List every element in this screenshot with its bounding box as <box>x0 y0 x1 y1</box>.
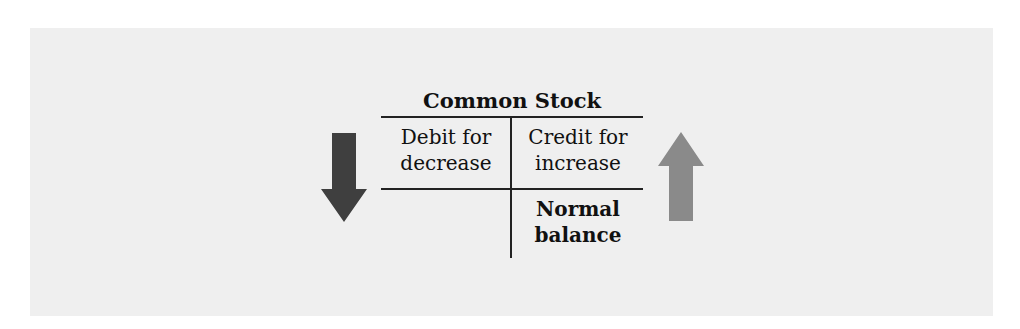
normal-balance-line1: Normal <box>513 196 643 222</box>
arrow-down-icon <box>319 133 369 223</box>
credit-label-line2: increase <box>513 150 643 176</box>
normal-balance-line2: balance <box>513 222 643 248</box>
debit-label-line2: decrease <box>383 150 509 176</box>
t-account-top-line <box>381 116 643 118</box>
t-account-divider-line <box>381 188 643 190</box>
credit-label: Credit for increase <box>513 124 643 176</box>
debit-label: Debit for decrease <box>383 124 509 176</box>
t-account-center-line <box>510 116 512 258</box>
debit-label-line1: Debit for <box>383 124 509 150</box>
normal-balance-label: Normal balance <box>513 196 643 248</box>
arrow-up-icon <box>656 132 706 222</box>
account-title: Common Stock <box>381 88 643 114</box>
credit-label-line1: Credit for <box>513 124 643 150</box>
